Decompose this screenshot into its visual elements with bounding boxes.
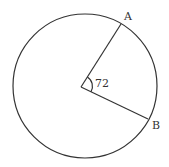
- point-label-a: A: [123, 10, 133, 23]
- radius-ob: [81, 87, 148, 119]
- angle-arc: [87, 77, 92, 92]
- circle-diagram: 72 A B: [0, 0, 169, 167]
- angle-label: 72: [95, 77, 109, 90]
- circle: [13, 14, 157, 158]
- point-label-b: B: [152, 119, 160, 132]
